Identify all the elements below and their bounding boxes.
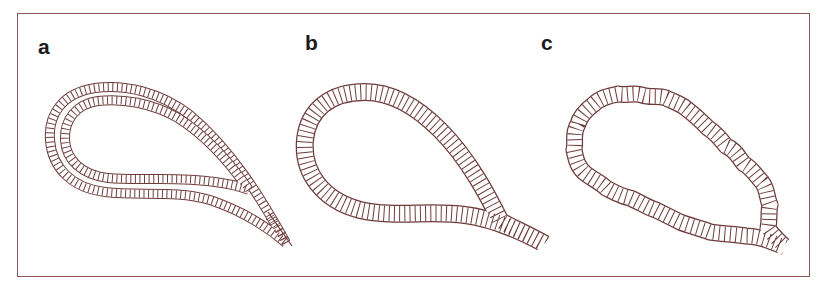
- panel-c-shape: [574, 94, 793, 256]
- diagram-canvas: [0, 0, 826, 294]
- panel-b-shape: [305, 92, 553, 254]
- panel-a-shape: [50, 87, 292, 246]
